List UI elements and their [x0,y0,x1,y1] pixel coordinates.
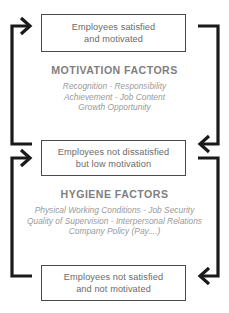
outcome-box-satisfied-motivated: Employees satisfied and motivated [41,14,186,52]
box-line: Employees satisfied [72,21,156,33]
section-list: Recognition - Responsibility Achievement… [10,81,219,113]
section-item: Recognition - Responsibility [10,81,219,92]
box-line: and not motivated [76,283,151,295]
bracket-arrow-up-right-icon [6,18,36,150]
outcome-box-not-dissatisfied-low-motivation: Employees not dissatisfied but low motiv… [41,140,186,176]
box-line: and motivated [84,33,143,45]
box-line: Employees not satisfied [64,271,163,283]
bracket-arrow-down-left-icon [196,150,226,282]
box-line: Employees not dissatisfied [58,146,169,158]
section-title: MOTIVATION FACTORS [10,64,219,76]
section-list: Physical Working Conditions - Job Securi… [10,205,219,237]
bracket-arrow-up-right-icon [6,150,36,282]
section-item: Growth Opportunity [10,102,219,113]
section-item: Company Policy (Pay....) [10,226,219,237]
herzberg-two-factor-diagram: Employees satisfied and motivated MOTIVA… [0,0,229,313]
box-line: but low motivation [76,158,151,170]
section-motivation-factors: MOTIVATION FACTORS Recognition - Respons… [10,64,219,113]
section-title: HYGIENE FACTORS [10,188,219,200]
section-item: Physical Working Conditions - Job Securi… [10,205,219,216]
section-hygiene-factors: HYGIENE FACTORS Physical Working Conditi… [10,188,219,237]
bracket-arrow-down-left-icon [196,18,226,150]
section-item: Achievement - Job Content [10,92,219,103]
section-item: Quality of Supervision - Interpersonal R… [10,216,219,227]
outcome-box-not-satisfied-not-motivated: Employees not satisfied and not motivate… [41,265,186,301]
